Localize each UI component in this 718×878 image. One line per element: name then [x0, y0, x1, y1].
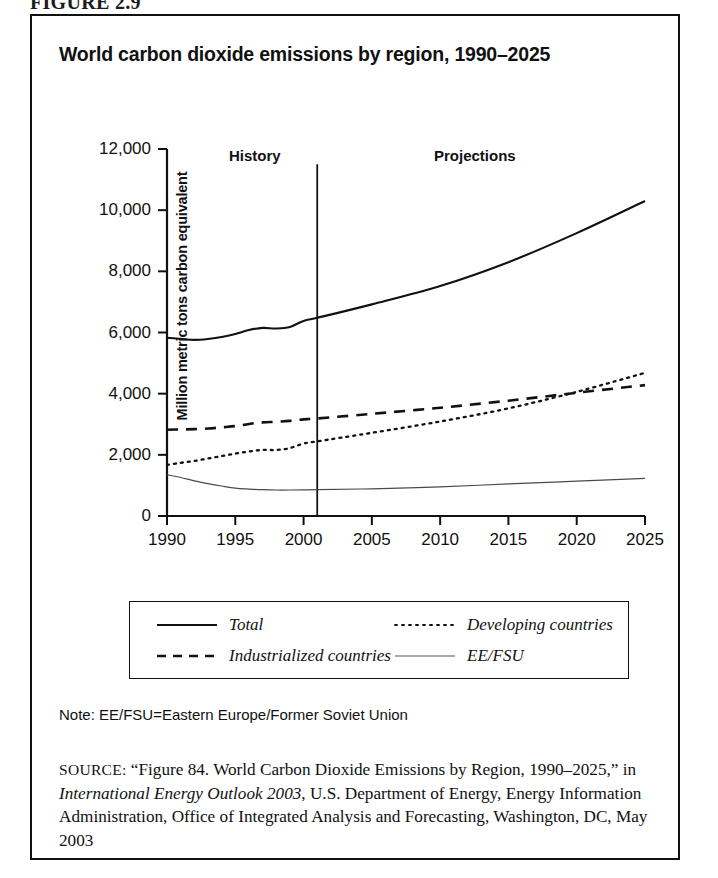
chart-legend: Total Developing countries Industrialize…	[129, 601, 629, 679]
y-tick-label: 2,000	[59, 445, 151, 465]
figure-box: World carbon dioxide emissions by region…	[30, 14, 680, 860]
y-axis-title: Million metric tons carbon equivalent	[174, 131, 190, 461]
annotation-projections: Projections	[434, 147, 516, 164]
x-tick-label: 2015	[473, 530, 543, 550]
source-kicker: SOURCE:	[59, 761, 127, 778]
source-publication-title: International Energy Outlook 2003	[59, 784, 301, 803]
x-tick-label: 1990	[132, 530, 202, 550]
y-tick-label: 4,000	[59, 384, 151, 404]
x-tick-label: 2010	[405, 530, 475, 550]
series-line-total	[167, 201, 645, 340]
source-text-part1: “Figure 84. World Carbon Dioxide Emissio…	[127, 760, 637, 779]
legend-swatch-dotted-icon	[394, 618, 456, 632]
y-tick-label: 12,000	[59, 139, 151, 159]
legend-swatch-dashed-icon	[156, 649, 218, 663]
legend-swatch-solid-icon	[156, 618, 218, 632]
y-tick-label: 6,000	[59, 323, 151, 343]
x-tick-label: 2025	[610, 530, 680, 550]
legend-label-ee-fsu: EE/FSU	[467, 646, 524, 666]
y-tick-label: 8,000	[59, 261, 151, 281]
data-series-group	[167, 201, 645, 490]
legend-entry-developing-countries: Developing countries	[394, 615, 613, 635]
series-line-ee-fsu	[167, 475, 645, 490]
annotation-history: History	[229, 147, 281, 164]
series-line-developing-countries	[167, 373, 645, 465]
x-tick-label: 2005	[337, 530, 407, 550]
x-tick-label: 1995	[200, 530, 270, 550]
figure-number-caption: FIGURE 2.9	[30, 0, 141, 14]
chart-plot-area: Million metric tons carbon equivalent Hi…	[59, 131, 659, 561]
chart-note: Note: EE/FSU=Eastern Europe/Former Sovie…	[59, 706, 408, 723]
y-tick-label: 10,000	[59, 200, 151, 220]
legend-label-developing-countries: Developing countries	[467, 615, 613, 635]
x-tick-label: 2020	[542, 530, 612, 550]
chart-title: World carbon dioxide emissions by region…	[59, 43, 550, 66]
axis-ticks	[158, 149, 645, 525]
legend-entry-total: Total	[156, 615, 263, 635]
legend-entry-ee-fsu: EE/FSU	[394, 646, 524, 666]
x-tick-label: 2000	[269, 530, 339, 550]
line-chart-svg	[59, 131, 659, 561]
chart-source: SOURCE: “Figure 84. World Carbon Dioxide…	[59, 758, 659, 852]
y-tick-label: 0	[59, 506, 151, 526]
legend-label-industrialized-countries: Industrialized countries	[229, 646, 391, 666]
legend-entry-industrialized-countries: Industrialized countries	[156, 646, 391, 666]
legend-label-total: Total	[229, 615, 263, 635]
legend-swatch-thin-solid-icon	[394, 649, 456, 663]
